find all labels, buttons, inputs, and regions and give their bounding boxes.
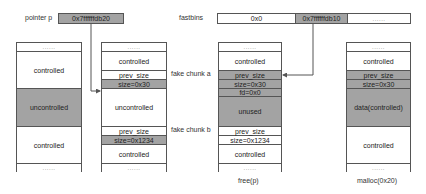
fastbin-arrow: [283, 24, 313, 75]
connector-arrows: [0, 0, 426, 194]
pointer-arrow: [91, 24, 100, 91]
